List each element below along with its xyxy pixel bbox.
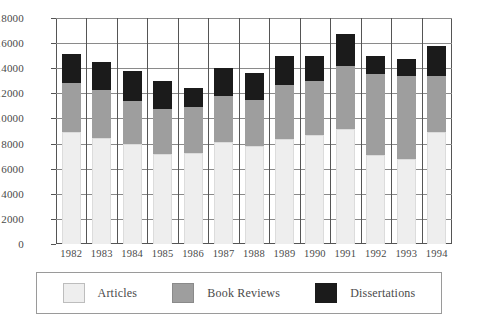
bar-segment-book-reviews[interactable] — [245, 100, 264, 146]
bar-segment-dissertations[interactable] — [62, 54, 81, 83]
chart-legend: ArticlesBook ReviewsDissertations — [36, 272, 442, 314]
x-axis-tick-label: 1987 — [208, 248, 240, 259]
bar-segment-articles[interactable] — [123, 144, 142, 244]
x-axis-tick-label: 1990 — [299, 248, 331, 259]
y-axis-tick-mark — [51, 68, 56, 69]
bar-segment-dissertations[interactable] — [184, 88, 203, 107]
y-axis-tick-mark — [51, 118, 56, 119]
y-axis-tick-label: 18000 — [0, 13, 24, 24]
x-axis-tick-label: 1983 — [86, 248, 118, 259]
bar-segment-book-reviews[interactable] — [62, 83, 81, 132]
bar-segment-dissertations[interactable] — [275, 56, 294, 86]
bar-group[interactable] — [366, 18, 385, 244]
legend-label: Articles — [98, 286, 138, 301]
y-axis-tick-mark — [51, 144, 56, 145]
y-axis-tick-mark — [51, 93, 56, 94]
bar-segment-book-reviews[interactable] — [305, 81, 324, 134]
bar-segment-articles[interactable] — [62, 132, 81, 244]
bar-segment-book-reviews[interactable] — [214, 96, 233, 142]
y-axis-tick-mark — [51, 18, 56, 19]
bar-segment-book-reviews[interactable] — [123, 101, 142, 144]
bar-segment-dissertations[interactable] — [427, 46, 446, 76]
x-axis-tick-label: 1982 — [55, 248, 87, 259]
bar-segment-articles[interactable] — [245, 146, 264, 244]
bar-segment-dissertations[interactable] — [397, 59, 416, 76]
bar-segment-articles[interactable] — [275, 139, 294, 244]
articles-swatch-icon — [63, 283, 85, 303]
bar-segment-dissertations[interactable] — [336, 34, 355, 65]
bar-segment-articles[interactable] — [366, 155, 385, 244]
bar-segment-book-reviews[interactable] — [275, 85, 294, 139]
bar-segment-articles[interactable] — [427, 132, 446, 244]
x-axis-tick-label: 1989 — [268, 248, 300, 259]
bar-segment-book-reviews[interactable] — [153, 109, 172, 154]
x-axis-tick-label: 1988 — [238, 248, 270, 259]
bar-group[interactable] — [305, 18, 324, 244]
bar-segment-book-reviews[interactable] — [427, 76, 446, 133]
bar-segment-articles[interactable] — [214, 142, 233, 244]
x-axis-tick-label: 1986 — [177, 248, 209, 259]
x-axis-tick-label: 1984 — [116, 248, 148, 259]
y-axis-tick-mark — [51, 244, 56, 245]
bar-group[interactable] — [62, 18, 81, 244]
bar-segment-articles[interactable] — [305, 135, 324, 244]
plot-area — [56, 18, 452, 244]
y-axis-tick-label: 8000 — [0, 139, 24, 150]
bar-segment-articles[interactable] — [92, 138, 111, 244]
bar-segment-articles[interactable] — [336, 129, 355, 245]
x-axis-tick-label: 1994 — [421, 248, 453, 259]
bar-group[interactable] — [245, 18, 264, 244]
x-axis-tick-label: 1991 — [329, 248, 361, 259]
legend-entry[interactable]: Dissertations — [315, 283, 415, 303]
legend-label: Dissertations — [350, 286, 415, 301]
dissertations-swatch-icon — [315, 283, 337, 303]
bars-layer — [56, 18, 452, 244]
y-axis-tick-label: 12000 — [0, 88, 24, 99]
bar-segment-book-reviews[interactable] — [92, 90, 111, 138]
bar-segment-book-reviews[interactable] — [336, 66, 355, 129]
bar-group[interactable] — [92, 18, 111, 244]
bar-segment-articles[interactable] — [153, 154, 172, 244]
bar-segment-articles[interactable] — [397, 159, 416, 244]
stacked-bar-chart: 0200040006000800010000120001400016000180… — [0, 0, 478, 328]
x-axis-tick-label: 1992 — [360, 248, 392, 259]
bar-segment-dissertations[interactable] — [366, 56, 385, 74]
bar-segment-articles[interactable] — [184, 153, 203, 244]
bar-segment-dissertations[interactable] — [123, 71, 142, 101]
bar-group[interactable] — [336, 18, 355, 244]
bar-group[interactable] — [397, 18, 416, 244]
bar-segment-dissertations[interactable] — [92, 62, 111, 90]
book-reviews-swatch-icon — [172, 283, 194, 303]
bar-group[interactable] — [184, 18, 203, 244]
x-axis-tick-label: 1985 — [147, 248, 179, 259]
bar-group[interactable] — [214, 18, 233, 244]
y-axis-tick-mark — [51, 169, 56, 170]
bar-group[interactable] — [123, 18, 142, 244]
bar-segment-dissertations[interactable] — [305, 56, 324, 82]
bar-group[interactable] — [275, 18, 294, 244]
x-axis-tick-label: 1993 — [390, 248, 422, 259]
bar-segment-dissertations[interactable] — [153, 81, 172, 109]
bar-group[interactable] — [427, 18, 446, 244]
y-axis-tick-label: 14000 — [0, 63, 24, 74]
y-axis-tick-label: 0 — [0, 239, 24, 250]
bar-segment-dissertations[interactable] — [245, 73, 264, 99]
y-axis-tick-mark — [51, 194, 56, 195]
bar-segment-book-reviews[interactable] — [397, 76, 416, 159]
bar-segment-book-reviews[interactable] — [184, 107, 203, 153]
y-axis-tick-mark — [51, 219, 56, 220]
bar-group[interactable] — [153, 18, 172, 244]
bar-segment-dissertations[interactable] — [214, 68, 233, 96]
y-axis-tick-label: 2000 — [0, 214, 24, 225]
legend-entry[interactable]: Book Reviews — [172, 283, 280, 303]
y-axis-tick-label: 10000 — [0, 113, 24, 124]
y-axis-tick-label: 6000 — [0, 164, 24, 175]
legend-entry[interactable]: Articles — [63, 283, 138, 303]
legend-label: Book Reviews — [207, 286, 280, 301]
y-axis-tick-label: 16000 — [0, 38, 24, 49]
bar-segment-book-reviews[interactable] — [366, 74, 385, 155]
y-axis-tick-label: 4000 — [0, 189, 24, 200]
y-axis-tick-mark — [51, 43, 56, 44]
